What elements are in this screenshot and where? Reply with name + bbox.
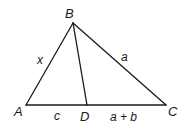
- side-label-ab: x: [36, 53, 44, 67]
- segment-bc: [73, 23, 166, 105]
- side-label-dc: a + b: [110, 110, 137, 124]
- segment-bd: [73, 23, 87, 105]
- vertex-label-b: B: [65, 6, 74, 21]
- segment-ab: [26, 23, 73, 105]
- side-label-ad: c: [54, 109, 60, 123]
- vertex-label-a: A: [13, 104, 23, 119]
- vertex-label-c: C: [168, 104, 178, 119]
- vertex-label-d: D: [80, 109, 89, 124]
- triangle-diagram: B A D C x a c a + b: [0, 0, 187, 130]
- side-label-bc: a: [121, 50, 128, 64]
